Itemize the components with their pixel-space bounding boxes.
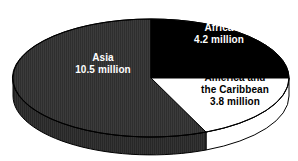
slice-top-africa <box>151 19 289 78</box>
pie-chart-graphic <box>0 0 298 161</box>
pie-chart-figure: Asia 10.5 million Africa 4.2 million Ame… <box>0 0 298 161</box>
